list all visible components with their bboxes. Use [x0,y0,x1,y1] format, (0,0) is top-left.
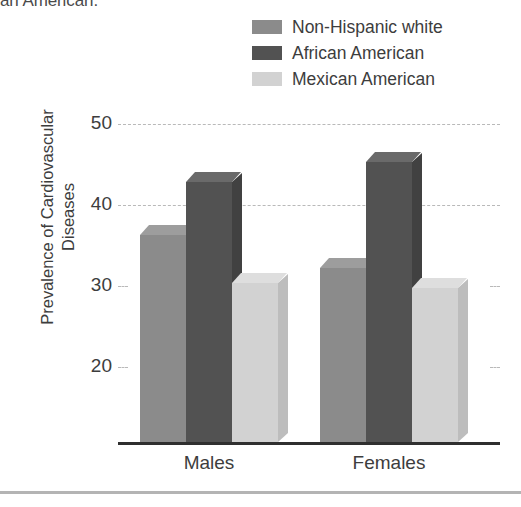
gridline-40 [118,205,500,206]
bar-females-mexican-american[interactable] [412,278,458,442]
gridline-30-right-stub [490,286,500,287]
bar-males-african-american[interactable] [186,172,232,442]
bar-side-face [458,279,468,442]
gridline-20-right-stub [490,367,500,368]
bar-front-face [232,283,278,442]
x-tick-label-females: Females [339,452,439,474]
y-tick-label-50: 50 [68,112,112,134]
y-axis-title-line-1: Prevalence of Cardiovascular [38,109,56,325]
bar-side-face [278,274,288,442]
bar-front-face [186,182,232,442]
bar-front-face [140,235,186,442]
y-tick-label-20: 20 [68,355,112,377]
gridline-50 [118,124,500,125]
bar-males-mexican-american[interactable] [232,273,278,442]
bar-females-non-hispanic-white[interactable] [320,258,366,442]
bottom-divider-rule [0,491,521,494]
gridline-30-left-stub [118,286,128,287]
x-axis-baseline [118,442,500,445]
bar-males-non-hispanic-white[interactable] [140,225,186,442]
bar-front-face [412,288,458,442]
bar-females-african-american[interactable] [366,152,412,442]
bar-front-face [366,162,412,442]
bar-front-face [320,268,366,442]
bar-chart-plot: Prevalence of Cardiovascular Diseases 50… [0,0,521,507]
x-tick-label-males: Males [159,452,259,474]
y-tick-label-30: 30 [68,274,112,296]
gridline-20-left-stub [118,367,128,368]
y-tick-label-40: 40 [68,193,112,215]
